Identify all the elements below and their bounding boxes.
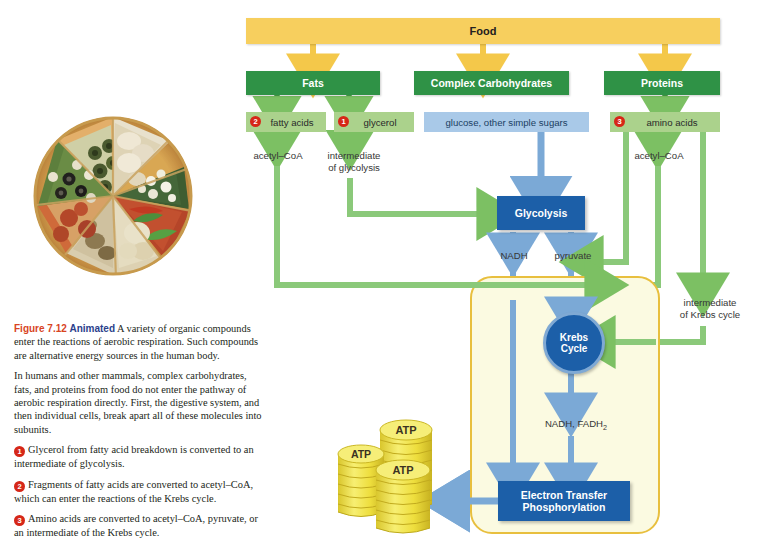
process-box-glycolysis: Glycolysis [497,196,585,230]
caption-intro-paragraph: Figure 7.12 Animated A variety of organi… [14,322,264,362]
note-marker-2: 2 [14,481,25,492]
caption-note-2: 2Fragments of fatty acids are converted … [14,478,264,505]
note-marker-3: 3 [14,515,25,526]
label-intermediate-of-glycolysis: intermediate of glycolysis [316,150,392,173]
etp-line-1: Electron Transfer [521,489,607,501]
krebs-line-1: Krebs [560,332,588,343]
label-acetyl-coa-left: acetyl–CoA [237,150,319,162]
food-label: Food [470,25,497,37]
caption-paragraph-2: In humans and other mammals, complex car… [14,369,264,436]
note-marker-3-inline: 3 [614,116,625,127]
group-box-carbohydrates: Complex Carbohydrates [414,71,569,95]
krebs-line-2: Cycle [561,343,588,354]
note-marker-1-inline: 1 [338,116,349,127]
label-nadh-fadh2: NADH, FADH2 [528,418,624,433]
group-box-proteins: Proteins [604,71,720,95]
label-intermediate-of-krebs-cycle: intermediate of Krebs cycle [664,297,756,320]
animated-tag: Animated [69,323,115,334]
subunit-box-amino-acids: amino acids [610,112,720,132]
proteins-label: Proteins [641,77,683,89]
caption-note-1: 1Glycerol from fatty acid breakdown is c… [14,443,264,470]
note-1-text: Glycerol from fatty acid breakdown is co… [14,444,254,469]
nadh-fadh2-subscript: 2 [603,423,607,432]
svg-text:ATP: ATP [395,424,416,436]
note-3-text: Amino acids are converted to acetyl–CoA,… [14,513,258,538]
atp-coin-stacks: ATP ATP ATP [332,408,458,536]
amino-acids-label: amino acids [646,117,697,128]
label-acetyl-coa-right: acetyl–CoA [618,150,700,162]
note-marker-2-inline: 2 [250,116,261,127]
fatty-acids-label: fatty acids [270,117,313,128]
figure-7-12: Food Fats Complex Carbohydrates Proteins… [0,0,764,548]
figure-caption: Figure 7.12 Animated A variety of organi… [14,322,264,546]
group-box-fats: Fats [246,71,380,95]
process-circle-krebs-cycle: Krebs Cycle [543,312,605,374]
nadh-fadh2-text: NADH, FADH [545,418,603,429]
carbohydrates-label: Complex Carbohydrates [431,77,552,89]
atp-stack-right: ATP [376,460,430,533]
process-box-electron-transfer: Electron Transfer Phosphorylation [498,481,630,521]
label-nadh: NADH [484,250,544,262]
glycolysis-label: Glycolysis [515,207,568,219]
sugars-label: glucose, other simple sugars [445,117,567,128]
note-2-text: Fragments of fatty acids are converted t… [14,479,253,504]
fats-label: Fats [302,77,324,89]
subunit-box-sugars: glucose, other simple sugars [424,112,589,132]
label-pyruvate: pyruvate [540,250,606,262]
figure-number: Figure 7.12 [14,323,67,334]
svg-text:ATP: ATP [351,448,371,460]
etp-line-2: Phosphorylation [523,501,606,513]
svg-text:ATP: ATP [392,464,413,476]
note-marker-1: 1 [14,446,25,457]
food-box: Food [246,18,720,44]
caption-note-3: 3Amino acids are converted to acetyl–CoA… [14,512,264,539]
glycerol-label: glycerol [363,117,396,128]
